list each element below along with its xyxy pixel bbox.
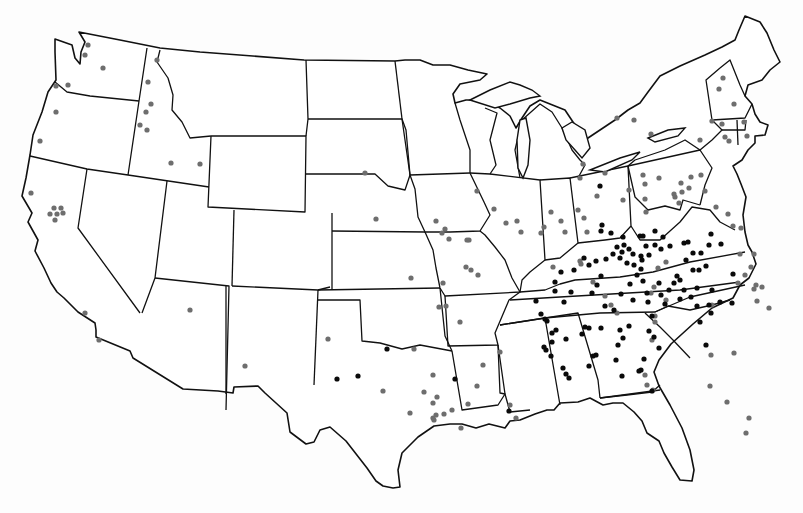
dot-black [593,258,598,263]
dot-gray [52,217,57,222]
dot-gray [655,265,660,270]
dot-black [586,262,591,267]
dot-black [681,287,686,292]
dot-black [667,243,672,248]
dot-black [571,267,576,272]
dot-gray [148,101,153,106]
dot-gray [748,264,753,269]
dot-gray [697,137,702,142]
dot-gray [407,410,412,415]
dot-gray [475,272,480,277]
dot-gray [474,383,479,388]
dot-black [698,250,703,255]
dot-black [613,357,618,362]
dot-gray [738,225,743,230]
dot-gray [737,251,742,256]
dot-gray [709,118,714,123]
dot-black [656,345,661,350]
dot-gray [620,197,625,202]
dot-gray [548,209,553,214]
map-canvas [0,0,803,513]
dot-gray [82,52,87,57]
dot-gray [722,134,727,139]
dot-gray [47,211,52,216]
dot-gray [507,402,512,407]
dot-gray [82,310,87,315]
dot-gray [474,188,479,193]
dot-black [586,363,591,368]
dot-black [656,280,661,285]
dot-gray [96,337,101,342]
dot-gray [411,346,416,351]
dot-black [334,376,339,381]
dot-gray [744,133,749,138]
dot-black [631,262,636,267]
dot-black [619,373,624,378]
dot-gray [759,284,764,289]
dot-gray [380,388,385,393]
dot-black [694,303,699,308]
dot-black [611,307,616,312]
dot-gray [449,407,454,412]
dot-black [548,353,553,358]
dot-gray [731,350,736,355]
dot-black [590,353,595,358]
dot-black [671,280,676,285]
dot-gray [581,215,586,220]
dot-gray [640,172,645,177]
dot-gray [602,170,607,175]
dot-gray [735,280,740,285]
dot-gray [679,189,684,194]
dot-gray [730,223,735,228]
us-dot-distribution-map [0,0,803,513]
dot-black [598,325,603,330]
dot-gray [719,121,724,126]
dot-gray [503,220,508,225]
dot-gray [65,82,70,87]
dot-black [598,273,603,278]
dot-gray [362,170,367,175]
dot-gray [608,302,613,307]
dot-black [620,335,625,340]
dot-gray [731,101,736,106]
dot-black [696,267,701,272]
dot-black [640,278,645,283]
dot-black [666,287,671,292]
dot-black [730,271,735,276]
dot-black [619,249,624,254]
dot-gray [686,185,691,190]
dot-black [598,228,603,233]
dot-black [627,281,632,286]
dot-gray [541,224,546,229]
dot-black [630,251,635,256]
dot-gray [716,86,721,91]
dot-black [652,242,657,247]
dot-gray [550,264,555,269]
dot-black [614,244,619,249]
dot-gray [433,412,438,417]
dot-black [636,368,641,373]
dot-gray [698,172,703,177]
dot-gray [754,298,759,303]
dot-black [644,290,649,295]
dot-black [610,251,615,256]
dot-gray [558,218,563,223]
dot-black [706,242,711,247]
dot-black [708,310,713,315]
dot-gray [713,204,718,209]
dot-black [558,269,563,274]
dot-black [552,279,557,284]
dot-gray [434,394,439,399]
dot-black [538,311,543,316]
dot-gray [100,65,105,70]
dot-black [624,260,629,265]
dot-black [688,294,693,299]
dot-black [533,298,538,303]
dot-black [641,356,646,361]
dot-gray [580,161,585,166]
dot-gray [688,174,693,179]
dot-black [384,346,389,351]
dot-black [599,222,604,227]
dot-gray [656,175,661,180]
dot-gray [648,131,653,136]
